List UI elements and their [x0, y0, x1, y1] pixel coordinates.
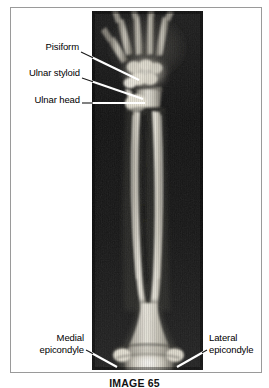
label-lateral-epicondyle-line1: Lateral	[209, 332, 237, 343]
figure-caption: IMAGE 65	[0, 377, 269, 388]
label-ulnar-head: Ulnar head	[0, 94, 80, 106]
label-medial-epicondyle: Medial epicondyle	[0, 332, 84, 355]
label-lateral-epicondyle-line2: epicondyle	[209, 344, 269, 356]
label-pisiform: Pisiform	[0, 41, 79, 53]
label-medial-epicondyle-line1: Medial	[57, 332, 84, 343]
radiograph-svg	[92, 11, 203, 370]
radiograph-image	[92, 11, 203, 370]
label-ulnar-styloid: Ulnar styloid	[0, 67, 80, 79]
label-medial-epicondyle-line2: epicondyle	[0, 344, 84, 356]
label-lateral-epicondyle: Lateral epicondyle	[209, 332, 269, 355]
figure-root: Pisiform Ulnar styloid Ulnar head Medial…	[0, 0, 269, 388]
label-pisiform-line1: Pisiform	[45, 41, 79, 52]
label-ulnar-head-line1: Ulnar head	[35, 94, 80, 105]
label-ulnar-styloid-line1: Ulnar styloid	[29, 67, 80, 78]
